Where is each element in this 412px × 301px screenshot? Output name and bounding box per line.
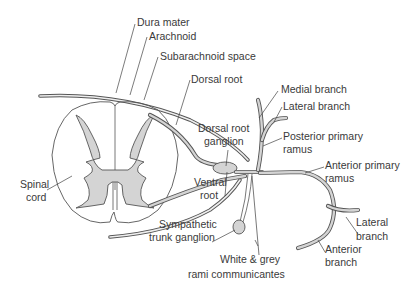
label-dorsal-root-ganglion-line1: Dorsal root: [198, 122, 249, 134]
label-anterior-primary-ramus-line1: Anterior primary: [325, 159, 400, 171]
label-anterior-branch-line2: branch: [325, 256, 357, 268]
label-lateral-branch-anterior-line2: branch: [356, 230, 388, 242]
label-dorsal-root: Dorsal root: [191, 73, 242, 85]
label-posterior-primary-ramus-line2: ramus: [283, 143, 312, 155]
label-dorsal-root-ganglion-line2: ganglion: [204, 135, 244, 147]
label-ventral-root-line2: root: [200, 189, 218, 201]
label-posterior-primary-ramus-line1: Posterior primary: [283, 130, 364, 142]
posterior-primary-ramus: [258, 100, 286, 170]
label-lateral-branch-posterior: Lateral branch: [283, 100, 350, 112]
label-lateral-branch-anterior-line1: Lateral: [356, 216, 388, 228]
label-spinal-cord-line1: Spinal: [20, 178, 49, 190]
spinal-nerve-diagram: Dura mater Arachnoid Subarachnoid space …: [0, 0, 412, 301]
label-rami-communicantes-line1: White & grey: [220, 253, 281, 265]
label-dura-mater: Dura mater: [137, 16, 190, 28]
label-rami-communicantes-line2: rami communicantes: [188, 268, 285, 280]
label-subarachnoid-space: Subarachnoid space: [160, 50, 256, 62]
labels: Dura mater Arachnoid Subarachnoid space …: [20, 16, 400, 280]
label-arachnoid: Arachnoid: [149, 30, 196, 42]
label-sympathetic-trunk-ganglion-line1: Sympathetic: [159, 218, 217, 230]
label-spinal-cord-line2: cord: [26, 191, 47, 203]
dorsal-root-ganglion: [213, 162, 237, 174]
label-anterior-primary-ramus-line2: ramus: [325, 172, 354, 184]
label-ventral-root-line1: Ventral: [194, 176, 227, 188]
label-sympathetic-trunk-ganglion-line2: trunk ganglion: [149, 231, 215, 243]
label-anterior-branch-line1: Anterior: [325, 243, 362, 255]
sympathetic-trunk-ganglion: [233, 220, 245, 234]
label-medial-branch: Medial branch: [281, 83, 347, 95]
